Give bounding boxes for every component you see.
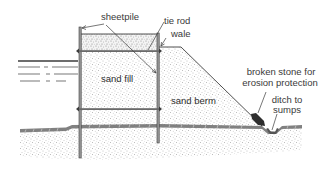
label-sand-berm: sand berm [171,96,216,106]
label-broken-stone-line1: broken stone for [238,67,324,77]
label-sheetpile: sheetpile [101,12,139,22]
tie-rod-upper [79,50,159,52]
label-ditch-line2: sumps [262,105,312,115]
label-broken-stone-line2: erosion protection [232,78,327,88]
label-tie-rod: tie rod [164,16,190,26]
sheetpile-left [79,27,81,158]
water-surface [18,61,78,81]
sheetpile-right [157,33,159,143]
sand-fill-upper-band [81,34,158,51]
wale-left-lower [76,107,79,112]
label-wale: wale [171,29,191,39]
wale-left-upper [76,49,79,54]
tie-rod-lower [79,108,159,110]
label-sand-fill: sand fill [101,74,133,84]
